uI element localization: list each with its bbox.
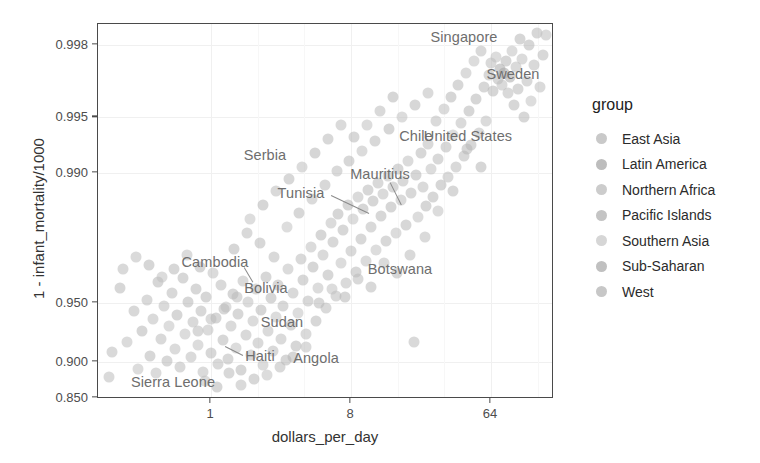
data-point bbox=[513, 84, 524, 95]
data-point bbox=[242, 228, 253, 239]
x-axis-tick-label: 64 bbox=[483, 406, 497, 421]
point-annotation-label: Cambodia bbox=[182, 254, 249, 270]
data-point bbox=[366, 282, 377, 293]
data-point bbox=[131, 252, 142, 263]
data-point bbox=[331, 291, 342, 302]
legend-key-swatch bbox=[588, 235, 614, 246]
data-point bbox=[188, 317, 199, 328]
y-axis-tick-label: 0.995 bbox=[55, 109, 88, 124]
data-point bbox=[488, 86, 499, 97]
data-point bbox=[461, 68, 472, 79]
data-point bbox=[178, 273, 189, 284]
data-point bbox=[411, 170, 422, 181]
legend-dot-icon bbox=[596, 235, 607, 246]
data-point bbox=[167, 288, 178, 299]
data-point bbox=[211, 313, 222, 324]
data-point bbox=[538, 50, 549, 61]
data-point bbox=[216, 280, 227, 291]
data-point bbox=[201, 292, 212, 303]
data-point bbox=[316, 230, 327, 241]
data-point bbox=[405, 250, 416, 261]
data-point bbox=[503, 88, 514, 99]
data-point bbox=[229, 244, 240, 255]
data-point bbox=[175, 362, 186, 373]
data-point bbox=[196, 306, 207, 317]
x-axis-tick-mark bbox=[209, 398, 210, 403]
x-axis-tick-mark bbox=[489, 398, 490, 403]
data-point bbox=[133, 364, 144, 375]
data-point bbox=[137, 326, 148, 337]
data-point bbox=[423, 88, 434, 99]
point-annotation-label: Sweden bbox=[487, 66, 540, 82]
data-point bbox=[164, 321, 175, 332]
data-point bbox=[507, 46, 518, 57]
data-point bbox=[433, 206, 444, 217]
data-point bbox=[323, 270, 334, 281]
legend-dot-icon bbox=[596, 133, 607, 144]
annotation-leader-line bbox=[225, 346, 244, 356]
data-point bbox=[310, 148, 321, 159]
legend-title: group bbox=[592, 96, 760, 114]
data-point bbox=[169, 264, 180, 275]
legend-key-swatch bbox=[588, 286, 614, 297]
data-point bbox=[282, 222, 293, 233]
data-point bbox=[236, 380, 247, 391]
data-point bbox=[332, 166, 343, 177]
data-point bbox=[336, 258, 347, 269]
data-point bbox=[366, 222, 377, 233]
data-point bbox=[357, 146, 368, 157]
data-point bbox=[144, 260, 155, 271]
legend-dot-icon bbox=[596, 261, 607, 272]
data-point bbox=[371, 245, 382, 256]
data-point bbox=[276, 334, 287, 345]
data-point bbox=[191, 284, 202, 295]
data-point bbox=[459, 151, 470, 162]
data-point bbox=[375, 106, 386, 117]
data-point bbox=[283, 264, 294, 275]
point-annotation-label: Sudan bbox=[261, 314, 303, 330]
data-point bbox=[420, 232, 431, 243]
x-axis-tick-label: 8 bbox=[346, 406, 353, 421]
legend-item-sub-saharan: Sub-Saharan bbox=[588, 254, 760, 280]
data-point bbox=[353, 192, 364, 203]
gridline-vertical bbox=[351, 24, 352, 397]
legend-item-label: Southern Asia bbox=[622, 233, 709, 249]
legend-item-southern-asia: Southern Asia bbox=[588, 228, 760, 254]
data-point bbox=[446, 92, 457, 103]
data-point bbox=[479, 82, 490, 93]
y-axis-tick-mark bbox=[92, 43, 97, 44]
data-point bbox=[172, 310, 183, 321]
legend-key-swatch bbox=[588, 133, 614, 144]
data-point bbox=[448, 186, 459, 197]
data-point bbox=[156, 334, 167, 345]
gridline-vertical-minor bbox=[398, 24, 399, 397]
data-point bbox=[245, 214, 256, 225]
data-point bbox=[224, 368, 235, 379]
data-point bbox=[145, 351, 156, 362]
data-point bbox=[526, 96, 537, 107]
data-point bbox=[223, 354, 234, 365]
data-point bbox=[418, 182, 429, 193]
data-point bbox=[384, 124, 395, 135]
gridline-horizontal bbox=[98, 45, 552, 46]
data-point bbox=[218, 335, 229, 346]
y-axis-tick-label: 0.900 bbox=[55, 353, 88, 368]
point-annotation-label: Mauritius bbox=[350, 166, 410, 182]
data-point bbox=[403, 156, 414, 167]
point-annotation-label: Serbia bbox=[244, 147, 287, 163]
data-point bbox=[340, 292, 351, 303]
data-point bbox=[456, 118, 467, 129]
point-annotation-label: Tunisia bbox=[278, 185, 325, 201]
data-point bbox=[338, 225, 349, 236]
legend-dot-icon bbox=[596, 159, 607, 170]
legend: group East AsiaLatin AmericaNorthern Afr… bbox=[588, 96, 760, 305]
data-point bbox=[281, 355, 292, 366]
data-point bbox=[294, 208, 305, 219]
legend-item-label: Pacific Islands bbox=[622, 207, 711, 223]
y-axis-tick-mark bbox=[92, 396, 97, 397]
gridline-vertical bbox=[211, 24, 212, 397]
data-point bbox=[541, 30, 552, 41]
data-point bbox=[413, 212, 424, 223]
data-point bbox=[336, 120, 347, 131]
legend-item-label: Northern Africa bbox=[622, 182, 715, 198]
